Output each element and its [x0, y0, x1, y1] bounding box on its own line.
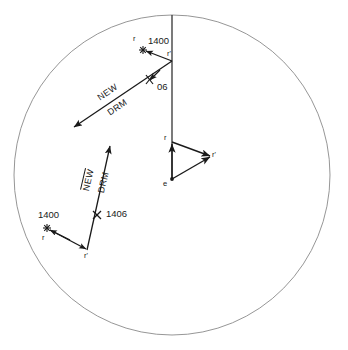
triangle-label-r-prime: r' [212, 151, 216, 159]
upper-label-06: 06 [157, 82, 168, 92]
lower-star-marker-1400 [43, 224, 51, 232]
lower-segment-vertex-to-star [50, 230, 70, 240]
relative-motion-diagram [0, 0, 348, 350]
diagram-canvas: r 1400 r' 06 NEW DRM NEW DRM 1406 1400 r… [0, 0, 348, 350]
lower-label-r-prime: r' [84, 252, 88, 260]
lower-new-drm-vector [87, 146, 110, 250]
upper-label-r: r [133, 35, 136, 43]
lower-label-1406: 1406 [106, 209, 127, 219]
upper-label-r-prime: r' [167, 50, 171, 58]
lower-label-r: r [42, 234, 45, 242]
triangle-edge-r-to-rprime [172, 142, 210, 156]
upper-label-1400: 1400 [148, 36, 169, 46]
triangle-vertex-e-dot [170, 177, 174, 181]
triangle-label-r: r [164, 134, 167, 142]
upper-star-marker-1400 [139, 46, 147, 54]
upper-new-drm-vector [74, 61, 172, 127]
lower-label-1400: 1400 [38, 210, 59, 220]
triangle-edge-e-to-rprime [172, 157, 210, 179]
triangle-label-e: e [163, 180, 167, 188]
